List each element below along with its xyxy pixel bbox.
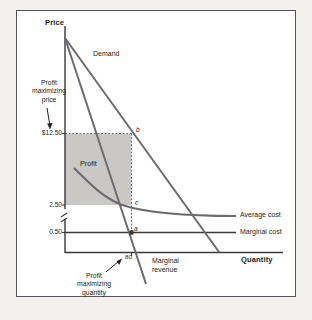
point-label-a: a: [134, 225, 138, 232]
axis-break-icon: [61, 213, 67, 222]
y-tick-label-12-50: $12.50: [34, 129, 62, 136]
marginal-revenue-label-line2: revenue: [152, 266, 177, 274]
annotation-price-line3: price: [20, 96, 78, 104]
marginal-cost-label: Marginal cost: [240, 228, 282, 236]
point-label-c: c: [135, 199, 138, 206]
figure-page: Price Quantity $12.50 2.50 0.50 80 Deman…: [0, 0, 312, 320]
x-tick-label-80: 80: [125, 254, 132, 261]
y-tick-label-2-50: 2.50: [34, 201, 62, 208]
annotation-quantity-line2: maximizing: [63, 280, 125, 288]
average-cost-label: Average cost: [240, 211, 281, 219]
annotation-quantity-line1: Profit: [63, 272, 125, 280]
y-tick-label-0-50: 0.50: [34, 228, 62, 235]
point-label-b: b: [136, 126, 140, 133]
profit-maximizing-quantity-arrowhead: [117, 259, 122, 266]
profit-maximizing-quantity-arrow: [106, 261, 119, 272]
marginal-revenue-label-line1: Marginal: [152, 257, 179, 265]
demand-curve-label: Demand: [93, 50, 119, 58]
profit-region-label: Profit: [80, 160, 97, 168]
annotation-profit-maximizing-price: Profit maximizing price: [20, 79, 78, 104]
annotation-quantity-line3: quantity: [63, 289, 125, 297]
annotation-profit-maximizing-quantity: Profit maximizing quantity: [63, 272, 125, 297]
annotation-price-line2: maximizing: [20, 87, 78, 95]
y-axis-title: Price: [45, 19, 64, 28]
annotation-price-line1: Profit: [20, 79, 78, 87]
x-axis-title: Quantity: [241, 256, 273, 265]
